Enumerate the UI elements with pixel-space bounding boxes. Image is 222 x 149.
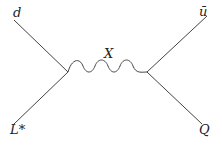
label-lstar: L*	[9, 122, 26, 137]
fermion-line-ubar	[147, 16, 207, 72]
boson-propagator-x	[68, 60, 147, 72]
label-q: Q	[199, 122, 210, 137]
fermion-line-lstar	[14, 72, 68, 124]
feynman-diagram: d X ū L* Q	[0, 0, 222, 149]
fermion-line-d	[14, 20, 68, 72]
fermion-line-q	[147, 72, 202, 124]
label-d: d	[13, 5, 21, 20]
label-ubar: ū	[199, 4, 207, 19]
label-x: X	[103, 46, 114, 61]
